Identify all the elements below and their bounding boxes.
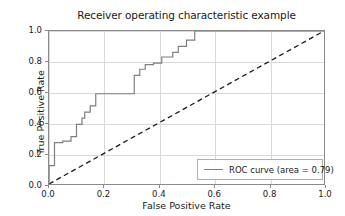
x-tick-mark xyxy=(103,185,104,188)
x-tick-mark xyxy=(325,185,326,188)
x-tick-label: 0.6 xyxy=(207,189,221,199)
x-tick-label: 0.2 xyxy=(97,189,111,199)
roc-chart-figure: Receiver operating characteristic exampl… xyxy=(0,0,345,216)
legend-line-swatch xyxy=(204,169,223,170)
x-tick-label: 1.0 xyxy=(318,189,332,199)
legend-label-roc: ROC curve (area = 0.79) xyxy=(229,165,334,175)
y-tick-mark xyxy=(45,30,48,31)
x-tick-mark xyxy=(159,185,160,188)
x-tick-mark xyxy=(214,185,215,188)
chart-legend: ROC curve (area = 0.79) xyxy=(197,159,323,180)
y-axis-label: True Positive Rate xyxy=(35,35,46,190)
x-tick-label: 0.4 xyxy=(152,189,166,199)
x-axis-label: False Positive Rate xyxy=(48,200,325,211)
x-tick-mark xyxy=(270,185,271,188)
x-tick-label: 0.8 xyxy=(263,189,277,199)
x-tick-mark xyxy=(48,185,49,188)
x-tick-label: 0.0 xyxy=(41,189,55,199)
chart-title: Receiver operating characteristic exampl… xyxy=(48,9,325,21)
